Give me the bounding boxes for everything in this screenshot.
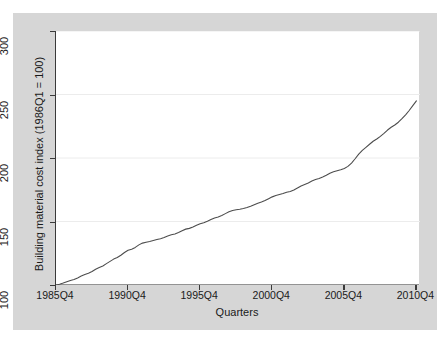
y-tick-label: 300 bbox=[0, 29, 10, 63]
y-tick-label: 150 bbox=[0, 220, 10, 254]
y-axis-title: Building material cost index (1986Q1 = 1… bbox=[33, 39, 45, 289]
x-tick-label: 1990Q4 bbox=[97, 289, 157, 301]
x-tick-label: 1995Q4 bbox=[169, 289, 229, 301]
plot-area bbox=[55, 31, 419, 285]
series-canvas bbox=[56, 31, 420, 285]
line-series-building-material-cost-index bbox=[56, 101, 416, 285]
x-tickmark bbox=[415, 285, 416, 290]
x-tickmark bbox=[127, 285, 128, 290]
x-tickmark bbox=[271, 285, 272, 290]
y-tick-label: 100 bbox=[0, 283, 10, 317]
x-tick-label: 2010Q4 bbox=[385, 289, 445, 301]
x-tickmark bbox=[199, 285, 200, 290]
y-tick-label: 200 bbox=[0, 156, 10, 190]
x-axis-title: Quarters bbox=[55, 306, 419, 318]
x-tick-label: 1985Q4 bbox=[25, 289, 85, 301]
gridlines bbox=[56, 31, 420, 285]
x-tick-label: 2005Q4 bbox=[313, 289, 373, 301]
y-tick-label: 250 bbox=[0, 93, 10, 127]
chart-screenshot: Building material cost index (1986Q1 = 1… bbox=[0, 0, 448, 348]
x-tickmark bbox=[343, 285, 344, 290]
graph-region: Building material cost index (1986Q1 = 1… bbox=[13, 13, 437, 330]
x-tick-label: 2000Q4 bbox=[241, 289, 301, 301]
x-tickmark bbox=[55, 285, 56, 290]
